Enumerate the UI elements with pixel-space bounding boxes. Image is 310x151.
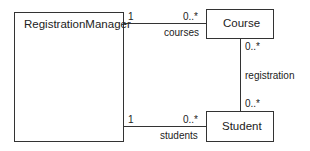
class-name-course: Course [223, 17, 260, 29]
class-student: Student [206, 111, 274, 142]
role-courses: courses [164, 27, 199, 38]
role-students: students [160, 130, 198, 141]
role-registration: registration [245, 70, 294, 81]
class-name-student: Student [222, 120, 262, 132]
multiplicity-registration-student: 0..* [245, 98, 260, 109]
association-line-courses [124, 23, 206, 24]
class-name-registration-manager: RegistrationManager [24, 18, 131, 30]
multiplicity-students: 0..* [183, 114, 198, 125]
multiplicity-courses: 0..* [183, 11, 198, 22]
class-registration-manager: RegistrationManager [14, 12, 124, 142]
association-line-registration [240, 39, 241, 111]
association-line-students [124, 126, 206, 127]
multiplicity-rm-courses: 1 [128, 11, 134, 22]
multiplicity-rm-students: 1 [128, 114, 134, 125]
multiplicity-registration-course: 0..* [245, 41, 260, 52]
class-course: Course [206, 9, 274, 39]
